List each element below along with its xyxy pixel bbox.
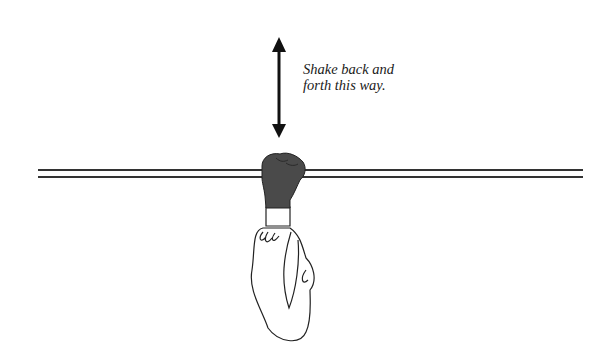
- caption-line-1: Shake back and: [303, 61, 394, 77]
- illustration: [0, 0, 612, 360]
- double-arrow-icon: [272, 37, 286, 138]
- caption-line-2: forth this way.: [303, 77, 386, 93]
- instruction-caption: Shake back and forth this way.: [303, 61, 394, 93]
- gloved-fist: [262, 153, 305, 208]
- arm: [251, 207, 314, 341]
- horizontal-bar: [38, 170, 583, 177]
- diagram-canvas: Shake back and forth this way.: [0, 0, 612, 360]
